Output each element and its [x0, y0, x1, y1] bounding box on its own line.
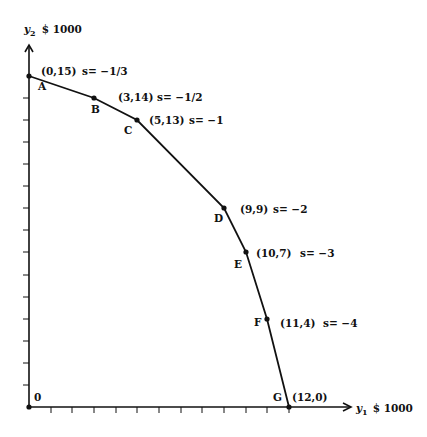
- point-F: [264, 316, 269, 321]
- point-E: [243, 249, 248, 254]
- label-F: F: [254, 316, 262, 328]
- slope-B: s= −1/2: [157, 91, 203, 103]
- coord-E: (10,7): [256, 247, 292, 259]
- coord-B: (3,14): [118, 91, 154, 103]
- coord-G: (12,0): [292, 391, 328, 403]
- label-G: G: [273, 391, 282, 403]
- coord-A: (0,15): [41, 65, 77, 77]
- slope-D: s= −2: [273, 203, 307, 215]
- slope-F: s= −4: [323, 317, 357, 329]
- label-B: B: [91, 103, 100, 115]
- coord-D: (9,9): [240, 203, 268, 215]
- slope-C: s= −1: [189, 114, 223, 126]
- label-D: D: [214, 212, 223, 224]
- point-G: [286, 404, 291, 409]
- coord-C: (5,13): [149, 114, 185, 126]
- label-E: E: [234, 258, 242, 270]
- x-axis-ticks: [51, 407, 289, 413]
- point-B: [91, 95, 96, 100]
- label-C: C: [124, 124, 132, 136]
- production-frontier-diagram: y2$ 1000 y1$ 1000 0 A B C D E F G (0,15)…: [0, 0, 427, 437]
- origin-label: 0: [34, 391, 41, 403]
- y-axis-label: y2$ 1000: [23, 23, 82, 38]
- point-A: [26, 73, 31, 78]
- point-D: [221, 205, 226, 210]
- origin-point: [26, 404, 31, 409]
- slope-A: s= −1/3: [82, 65, 128, 77]
- point-C: [134, 117, 139, 122]
- label-A: A: [37, 80, 47, 92]
- slope-E: s= −3: [300, 247, 334, 259]
- coord-F: (11,4): [280, 317, 316, 329]
- x-axis-label: y1$ 1000: [355, 402, 413, 417]
- y-axis-ticks: [23, 98, 29, 385]
